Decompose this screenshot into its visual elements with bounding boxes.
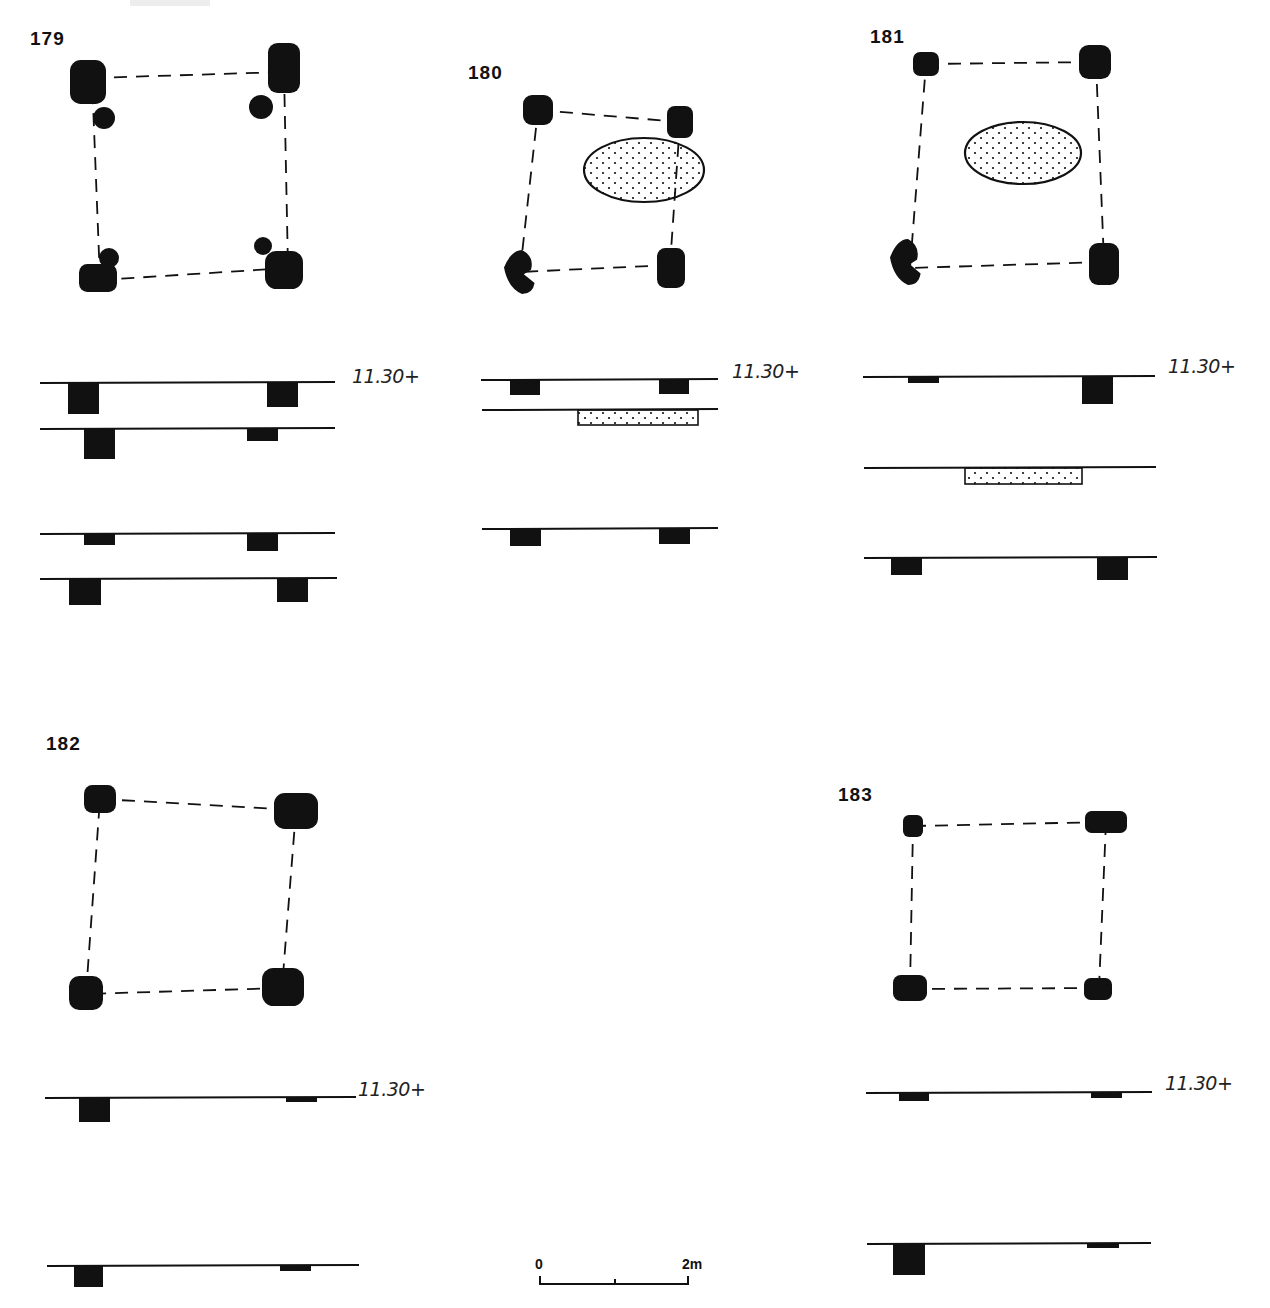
section-post-fill: [267, 383, 298, 407]
posthole: [79, 264, 117, 292]
posthole: [1084, 978, 1112, 1000]
dashed-outline-edge: [910, 262, 1104, 268]
stippled-pit: [965, 122, 1081, 184]
section-ground-line: [482, 409, 718, 410]
dashed-outline-edge: [282, 810, 296, 988]
section-post-fill: [1097, 558, 1128, 580]
posthole: [1079, 45, 1111, 79]
section-post-fill: [908, 377, 939, 383]
dashed-outline-edge: [284, 72, 288, 268]
section-post-fill: [74, 1266, 103, 1287]
section-ground-line: [864, 467, 1156, 468]
section-post-fill: [277, 579, 308, 602]
dashed-outline-edge: [520, 110, 538, 272]
posthole: [69, 976, 103, 1010]
dashed-outline-edge: [910, 988, 1099, 989]
section-ground-line: [864, 557, 1157, 558]
section-post-fill: [510, 380, 540, 395]
posthole: [268, 43, 300, 93]
dashed-outline-edge: [100, 268, 288, 280]
structure-label: 180: [468, 62, 503, 84]
dashed-outline-edge: [926, 62, 1096, 64]
section-ground-line: [40, 533, 335, 534]
posthole: [274, 793, 318, 829]
structure-183: [893, 811, 1127, 1001]
posthole: [523, 95, 553, 125]
section-ground-line: [481, 379, 718, 380]
section-ground-line: [40, 428, 335, 429]
posthole: [265, 251, 303, 289]
section-post-fill: [68, 383, 99, 414]
small-posthole: [249, 95, 273, 119]
elevation-label: 11.30+: [1165, 1072, 1232, 1094]
section-post-fill: [891, 558, 922, 575]
posthole: [667, 106, 693, 138]
posthole: [890, 239, 921, 285]
dashed-outline-edge: [910, 64, 926, 268]
section-ground-line: [863, 376, 1155, 377]
structure-179: [70, 43, 303, 292]
posthole: [262, 968, 304, 1006]
small-posthole: [99, 248, 119, 268]
structure-sections: [40, 376, 1157, 1287]
section-ground-line: [867, 1243, 1151, 1244]
elevation-label: 11.30+: [358, 1078, 425, 1100]
section-ground-line: [40, 578, 337, 579]
elevation-label: 11.30+: [732, 360, 799, 382]
posthole: [657, 248, 685, 288]
posthole: [893, 975, 927, 1001]
section-post-fill: [286, 1098, 317, 1102]
posthole: [1085, 811, 1127, 833]
dashed-outline-edge: [1099, 822, 1106, 988]
figure-canvas: [0, 0, 1270, 1308]
posthole: [84, 785, 116, 813]
dashed-outline-edge: [1096, 62, 1104, 262]
section-post-fill: [84, 429, 115, 459]
section-post-fill: [510, 529, 541, 546]
scale-end-label: 2m: [682, 1256, 702, 1272]
structure-label: 181: [870, 26, 905, 48]
structure-180: [504, 95, 704, 294]
section-post-fill: [659, 380, 689, 394]
elevation-label: 11.30+: [352, 365, 419, 387]
section-group-179: [40, 382, 337, 605]
dashed-outline-edge: [92, 72, 284, 78]
section-post-fill: [899, 1093, 929, 1101]
posthole: [1089, 243, 1119, 285]
section-post-fill: [247, 534, 278, 551]
section-ground-line: [45, 1097, 356, 1098]
structure-label: 183: [838, 784, 873, 806]
structure-182: [69, 785, 318, 1010]
dashed-outline-edge: [913, 822, 1106, 826]
section-post-fill: [659, 529, 690, 544]
section-post-fill: [893, 1244, 925, 1275]
dashed-outline-edge: [100, 799, 296, 810]
structure-181: [890, 45, 1119, 285]
dashed-outline-edge: [910, 826, 913, 989]
section-pit-fill: [965, 468, 1082, 484]
section-post-fill: [69, 579, 101, 605]
section-group-182: [45, 1097, 359, 1287]
section-post-fill: [84, 534, 115, 545]
elevation-label: 11.30+: [1168, 355, 1235, 377]
section-post-fill: [1091, 1093, 1122, 1098]
small-posthole: [93, 107, 115, 129]
section-post-fill: [79, 1098, 110, 1122]
dashed-outline-edge: [538, 110, 680, 122]
section-group-181: [863, 376, 1157, 580]
structure-plans: [69, 43, 1127, 1010]
section-ground-line: [47, 1265, 359, 1266]
section-post-fill: [280, 1266, 311, 1271]
dashed-outline-edge: [520, 265, 670, 272]
section-ground-line: [482, 528, 718, 529]
section-group-183: [866, 1092, 1152, 1275]
structure-label: 182: [46, 733, 81, 755]
section-post-fill: [1087, 1244, 1119, 1248]
section-pit-fill: [578, 410, 698, 425]
posthole: [70, 60, 106, 104]
structure-label: 179: [30, 28, 65, 50]
posthole: [903, 815, 923, 837]
posthole: [913, 52, 939, 76]
scale-bar: [540, 1276, 688, 1284]
section-post-fill: [247, 429, 278, 441]
